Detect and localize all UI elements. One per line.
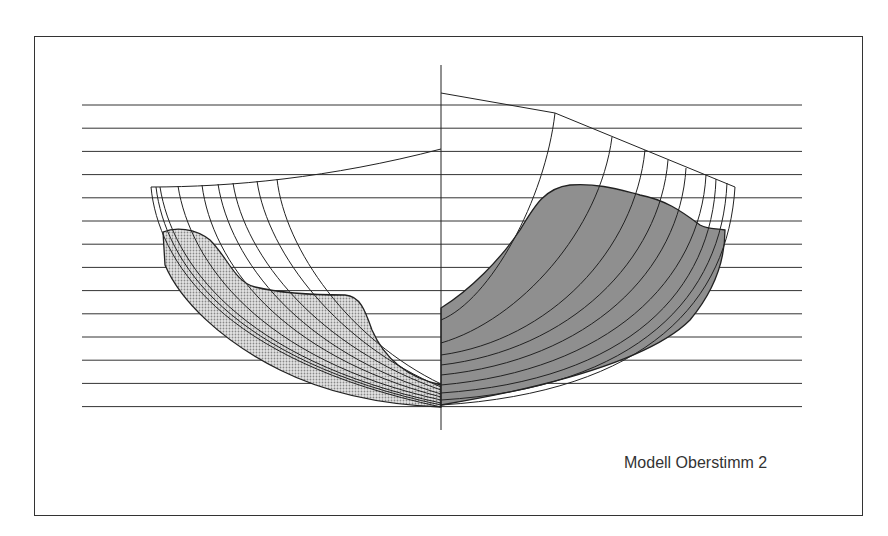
diagram-caption: Modell Oberstimm 2 <box>624 454 767 472</box>
fore-sheer-line <box>441 93 735 187</box>
aft-sheer-line <box>151 149 441 187</box>
